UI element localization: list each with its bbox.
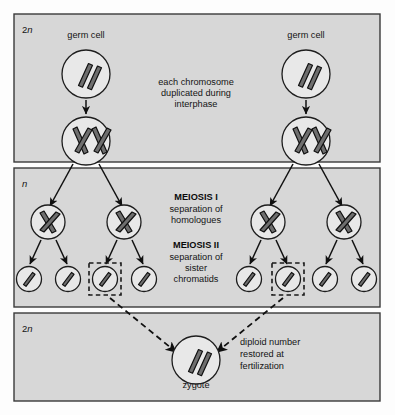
meiosis-one-heading: MEIOSIS I	[174, 192, 217, 202]
interphase-annotation-line-1: each chromosome	[158, 77, 234, 87]
cell-gamete-7	[313, 267, 338, 292]
meiosis-two-heading: MEIOSIS II	[173, 240, 219, 250]
meiosis-two-line-2: sister	[185, 263, 207, 273]
cell-gamete-6	[276, 267, 301, 292]
cell-gamete-4	[132, 267, 157, 292]
cell-meiosis-i-product-3	[251, 205, 285, 239]
meiosis-two-line-1: separation of	[169, 252, 223, 262]
cell-duplicated-left	[62, 117, 111, 165]
interphase-annotation-line-2: duplicated during	[161, 88, 231, 98]
interphase-annotation-line-3: interphase	[175, 99, 218, 109]
germ-cell-right-label: germ cell	[287, 30, 324, 40]
cell-zygote	[172, 336, 220, 384]
cell-gamete-1	[17, 267, 42, 292]
ploidy-label-middle: n	[22, 178, 27, 189]
ploidy-label-top: 2n	[22, 24, 33, 35]
meiosis-two-line-3: chromatids	[174, 274, 219, 284]
cell-gamete-5	[237, 267, 262, 292]
cell-meiosis-i-product-1	[31, 205, 65, 239]
cell-gamete-8	[352, 267, 377, 292]
cell-germ-right	[282, 50, 330, 98]
diagram-canvas: 2n n 2n germ cell germ cell zygote each …	[0, 0, 395, 415]
cell-meiosis-i-product-4	[327, 205, 361, 239]
meiosis-one-line-2: homologues	[171, 215, 221, 225]
cell-germ-left	[62, 50, 110, 98]
meiosis-one-line-1: separation of	[169, 204, 223, 214]
cell-duplicated-right	[282, 117, 331, 165]
cell-gamete-2	[56, 267, 81, 292]
cell-meiosis-i-product-2	[107, 205, 141, 239]
meiosis-diagram-figure: 2n n 2n germ cell germ cell zygote each …	[0, 0, 395, 415]
fertilization-line-1: diploid number	[240, 337, 300, 347]
ploidy-label-bottom: 2n	[22, 323, 33, 334]
fertilization-line-3: fertilization	[240, 361, 284, 371]
cell-gamete-3	[93, 267, 118, 292]
germ-cell-left-label: germ cell	[67, 30, 104, 40]
fertilization-line-2: restored at	[240, 349, 284, 359]
